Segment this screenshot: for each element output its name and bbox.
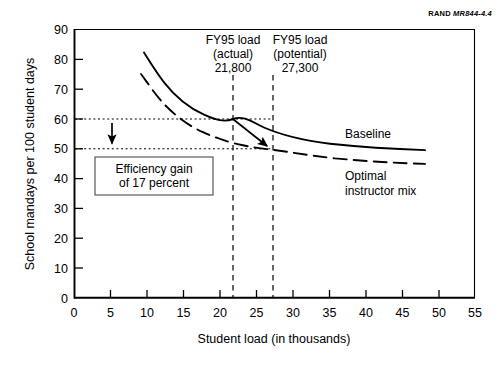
x-ticklabel-15: 15	[177, 306, 191, 320]
x-ticklabel-25: 25	[250, 306, 264, 320]
x-axis-ticks	[111, 290, 440, 298]
chart-svg: 0 10 20 30 40 50 60 70 80 90 0 5	[0, 0, 504, 365]
curve-label-baseline: Baseline	[345, 127, 391, 141]
fy95-actual-line2: (actual)	[213, 47, 253, 61]
x-ticklabel-35: 35	[323, 306, 337, 320]
y-ticklabel-90: 90	[54, 23, 68, 37]
fy95-actual-line1: FY95 load	[206, 33, 261, 47]
y-ticklabel-50: 50	[54, 142, 68, 156]
y-ticklabel-20: 20	[54, 232, 68, 246]
annotation-efficiency-gain: Efficiency gain of 17 percent	[95, 157, 213, 195]
series-optimal-instructor-mix-curve	[141, 74, 425, 164]
x-axis-title: Student load (in thousands)	[198, 332, 351, 346]
y-ticklabel-70: 70	[54, 83, 68, 97]
annotation-fy95-potential: FY95 load (potential) 27,300	[273, 33, 328, 75]
figure-container: RAND MR844-4.4 0 10 20	[0, 0, 504, 365]
curve-label-optimal-instructor-mix: Optimal instructor mix	[345, 169, 416, 198]
x-ticklabel-20: 20	[213, 306, 227, 320]
efficiency-gain-line2: of 17 percent	[119, 176, 190, 190]
y-ticklabel-60: 60	[54, 113, 68, 127]
x-ticklabel-30: 30	[286, 306, 300, 320]
x-ticklabel-10: 10	[140, 306, 154, 320]
annotation-fy95-actual: FY95 load (actual) 21,800	[206, 33, 261, 75]
fy95-potential-line2: (potential)	[273, 47, 326, 61]
x-ticklabel-45: 45	[396, 306, 410, 320]
y-ticklabel-10: 10	[54, 262, 68, 276]
y-axis-title: School mandays per 100 student days	[23, 58, 37, 271]
load-shift-arrow	[234, 120, 268, 147]
x-axis-tick-labels: 0 5 10 15 20 25 30 35 40 45 50 55	[71, 306, 482, 320]
x-ticklabel-40: 40	[359, 306, 373, 320]
y-axis-tick-labels: 0 10 20 30 40 50 60 70 80 90	[54, 23, 68, 305]
x-ticklabel-5: 5	[107, 306, 114, 320]
x-ticklabel-50: 50	[432, 306, 446, 320]
x-ticklabel-55: 55	[468, 306, 482, 320]
optimal-label-line2: instructor mix	[345, 184, 416, 198]
fy95-potential-value: 27,300	[282, 61, 319, 75]
y-axis-ticks	[75, 59, 84, 268]
y-ticklabel-40: 40	[54, 172, 68, 186]
x-ticklabel-0: 0	[71, 306, 78, 320]
fy95-actual-value: 21,800	[215, 61, 252, 75]
y-ticklabel-30: 30	[54, 202, 68, 216]
optimal-label-line1: Optimal	[345, 169, 386, 183]
y-ticklabel-80: 80	[54, 53, 68, 67]
efficiency-gain-line1: Efficiency gain	[115, 162, 192, 176]
y-ticklabel-0: 0	[61, 292, 68, 306]
fy95-potential-line1: FY95 load	[273, 33, 328, 47]
